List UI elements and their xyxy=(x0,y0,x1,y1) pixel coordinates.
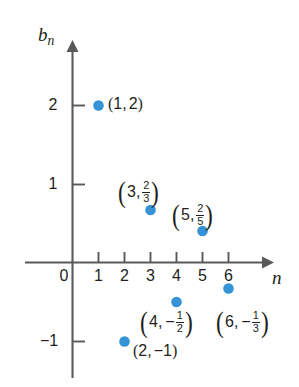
y-axis-arrowhead xyxy=(67,40,79,52)
x-axis-arrowhead xyxy=(262,257,274,269)
data-point-3[interactable] xyxy=(145,205,156,216)
data-point-2[interactable] xyxy=(119,336,130,347)
scatter-plot-canvas xyxy=(0,0,299,387)
data-point-5[interactable] xyxy=(197,226,208,237)
data-point-6[interactable] xyxy=(223,283,234,294)
x-axis-ticks xyxy=(99,252,229,263)
y-axis-ticks xyxy=(73,106,86,342)
data-points xyxy=(93,100,234,347)
data-point-1[interactable] xyxy=(93,100,104,111)
data-point-4[interactable] xyxy=(171,297,182,308)
